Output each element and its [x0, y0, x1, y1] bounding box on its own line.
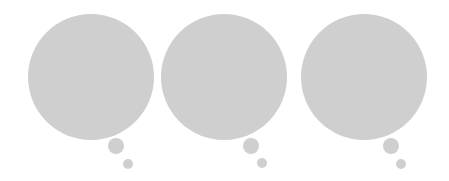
thought-bubble-1: [28, 14, 154, 140]
thought-bubble-1-trail-tiny: [123, 159, 133, 169]
thought-bubble-2: [161, 14, 287, 140]
thought-bubble-2-trail-small: [243, 138, 259, 154]
thought-bubble-3: [301, 14, 427, 140]
thought-bubble-3-trail-tiny: [396, 159, 406, 169]
thought-bubble-3-trail-small: [383, 138, 399, 154]
thought-bubble-2-trail-tiny: [257, 158, 267, 168]
thought-bubble-1-trail-small: [108, 138, 124, 154]
